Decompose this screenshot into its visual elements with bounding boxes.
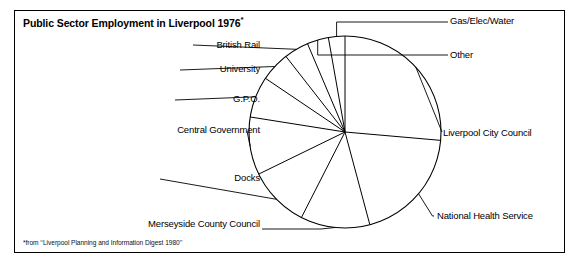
slice-divider-5: [250, 117, 345, 132]
slice-label-university: University: [220, 64, 260, 74]
slice-divider-1: [345, 132, 441, 140]
slice-divider-9: [328, 37, 345, 132]
slice-divider-2: [345, 132, 370, 225]
slice-label-central-government: Central Government: [177, 125, 260, 135]
slice-label-british-rail: British Rail: [216, 40, 260, 50]
slice-label-liverpool-city-council: Liverpool City Council: [443, 128, 532, 138]
leader-line-liverpool-city-council: [416, 67, 442, 132]
slice-divider-4: [259, 132, 345, 174]
slice-divider-7: [286, 56, 345, 132]
slice-divider-6: [265, 78, 345, 132]
slice-divider-8: [307, 44, 345, 132]
slice-label-gpo: G.P.O.: [233, 94, 260, 104]
slice-label-docks: Docks: [234, 173, 260, 183]
leader-line-other: [318, 40, 448, 55]
slice-divider-3: [301, 132, 345, 218]
leader-line-gas-elec-water: [337, 22, 448, 36]
slice-label-other: Other: [450, 50, 473, 60]
leader-line-national-health-service: [419, 194, 435, 216]
slice-label-gas-elec-water: Gas/Elec/Water: [450, 16, 514, 26]
slice-label-merseyside-county-council: Merseyside County Council: [148, 219, 260, 229]
slice-label-national-health-service: National Health Service: [437, 211, 533, 221]
leader-line-merseyside-county-council: [262, 228, 335, 230]
pie-slices: [249, 36, 441, 228]
